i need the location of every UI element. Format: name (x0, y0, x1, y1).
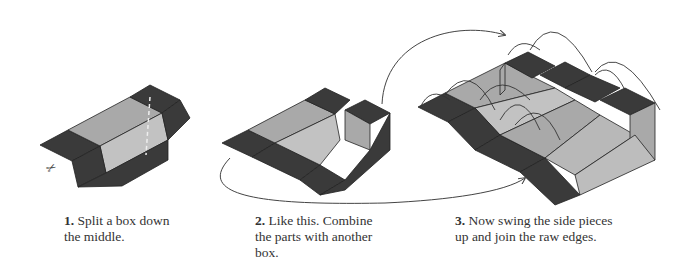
step3-caption: 3. Now swing the side pieces up and join… (455, 213, 625, 245)
scissors-icon: ✂ (43, 160, 59, 177)
step1-caption: 1. Split a box down the middle. (64, 213, 184, 245)
step3-assembly (418, 52, 655, 205)
step2-box (222, 88, 390, 195)
step2-caption: 2. Like this. Combine the parts with ano… (255, 213, 385, 261)
step1-box (40, 85, 190, 187)
